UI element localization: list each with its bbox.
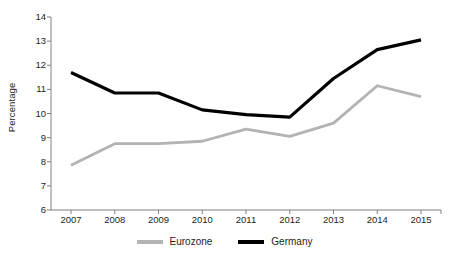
y-axis-title-label: Percentage	[7, 82, 18, 132]
y-axis-tick-label: 7	[20, 181, 46, 191]
x-axis-tick-label: 2011	[223, 214, 269, 226]
legend-label-germany: Germany	[271, 236, 312, 248]
x-axis-tick-label: 2010	[179, 214, 225, 226]
y-axis-tick-label: 6	[20, 205, 46, 215]
legend-item-eurozone[interactable]: Eurozone	[137, 236, 213, 248]
x-axis-tick-label: 2015	[398, 214, 444, 226]
data-series-group	[71, 40, 421, 165]
x-axis-tick-label: 2009	[136, 214, 182, 226]
legend-label-eurozone: Eurozone	[170, 236, 213, 248]
legend-swatch-germany	[238, 240, 264, 244]
x-axis-tick-labels: 200720082009201020112012201320142015	[51, 214, 441, 228]
x-axis-tick-label: 2013	[311, 214, 357, 226]
legend-item-germany[interactable]: Germany	[238, 236, 312, 248]
series-line-eurozone	[71, 86, 421, 166]
y-axis-tick-label: 9	[20, 133, 46, 143]
legend-swatch-eurozone	[137, 240, 163, 244]
y-axis-tick-labels: 14131211109876	[18, 0, 46, 256]
y-axis-tick-label: 8	[20, 157, 46, 167]
y-axis-tick-label: 11	[20, 84, 46, 94]
plot-area	[51, 17, 441, 210]
x-axis-tick-label: 2007	[48, 214, 94, 226]
x-axis-tick-label: 2014	[354, 214, 400, 226]
series-line-germany	[71, 40, 421, 117]
y-axis-tick-label: 13	[20, 36, 46, 46]
y-axis-tick-label: 10	[20, 109, 46, 119]
line-chart-figure: Percentage 14131211109876 20072008200920…	[0, 0, 449, 256]
plot-svg	[51, 17, 441, 210]
x-axis-tick-label: 2008	[92, 214, 138, 226]
chart-legend: EurozoneGermany	[0, 231, 449, 253]
y-axis-tick-label: 12	[20, 60, 46, 70]
x-axis-tick-label: 2012	[267, 214, 313, 226]
y-axis-tick-label: 14	[20, 12, 46, 22]
